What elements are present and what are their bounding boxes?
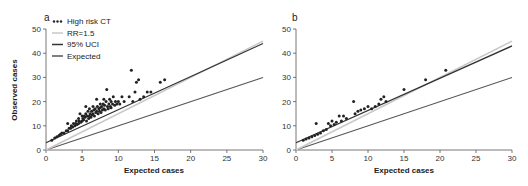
- data-point: [322, 129, 325, 132]
- legend-item: RR=1.5: [52, 29, 95, 38]
- y-tick-label: 10: [282, 122, 291, 131]
- data-point: [105, 100, 108, 103]
- data-point: [63, 132, 66, 135]
- data-point: [78, 112, 81, 115]
- data-point: [146, 90, 149, 93]
- x-tick-label: 5: [330, 154, 335, 163]
- legend-label: RR=1.5: [67, 29, 95, 38]
- data-point: [313, 134, 316, 137]
- data-point: [340, 119, 343, 122]
- legend-item: 95% UCI: [52, 40, 99, 49]
- data-point: [92, 105, 95, 108]
- data-point: [137, 78, 140, 81]
- data-point: [327, 122, 330, 125]
- x-tick-label: 25: [222, 154, 231, 163]
- data-point: [75, 119, 78, 122]
- x-tick-label: 30: [259, 154, 268, 163]
- panel-b-xlabel: Expected cases: [374, 166, 435, 175]
- data-point: [329, 124, 332, 127]
- data-point: [331, 119, 334, 122]
- panel-a-xlabel: Expected cases: [124, 166, 185, 175]
- data-point: [377, 103, 380, 106]
- panel-a-ylabel: Observed cases: [10, 59, 19, 121]
- x-tick-label: 10: [364, 154, 373, 163]
- data-point: [120, 95, 123, 98]
- data-point: [307, 136, 310, 139]
- x-tick-label: 5: [80, 154, 85, 163]
- data-point: [112, 95, 115, 98]
- y-tick-label: 10: [32, 122, 41, 131]
- panel-b: b 01020304050051015202530 Expected cases: [282, 12, 517, 175]
- data-point: [88, 107, 91, 110]
- legend-item: High risk CT: [53, 17, 111, 26]
- y-tick-label: 30: [32, 73, 41, 82]
- data-point: [84, 105, 87, 108]
- data-point: [139, 98, 142, 101]
- data-point: [370, 107, 373, 110]
- y-tick-label: 0: [287, 146, 292, 155]
- legend-item: Expected: [52, 52, 100, 61]
- data-point: [319, 132, 322, 135]
- x-tick-label: 10: [114, 154, 123, 163]
- data-point: [66, 122, 69, 125]
- data-point: [128, 95, 131, 98]
- data-point: [315, 122, 318, 125]
- y-tick-label: 20: [282, 98, 291, 107]
- y-tick-label: 50: [282, 25, 291, 34]
- legend: High risk CTRR=1.595% UCIExpected: [52, 17, 111, 61]
- data-point: [118, 103, 121, 106]
- panel-b-lines: [296, 41, 512, 150]
- data-point: [359, 109, 362, 112]
- data-point: [93, 115, 96, 118]
- data-point: [335, 121, 338, 124]
- panel-b-points: [302, 69, 448, 142]
- data-point: [50, 139, 53, 142]
- data-point: [356, 110, 359, 113]
- x-tick-label: 30: [508, 154, 517, 163]
- data-point: [338, 115, 341, 118]
- data-point: [310, 135, 313, 138]
- data-point: [354, 112, 357, 115]
- data-point: [345, 117, 348, 120]
- line-95-uci: [296, 46, 512, 143]
- y-tick-label: 50: [32, 25, 41, 34]
- data-point: [333, 123, 336, 126]
- data-point: [142, 95, 145, 98]
- data-point: [385, 100, 388, 103]
- x-tick-label: 25: [472, 154, 481, 163]
- y-tick-label: 20: [32, 98, 41, 107]
- data-point: [123, 100, 126, 103]
- data-point: [424, 78, 427, 81]
- data-point: [104, 109, 107, 112]
- x-tick-label: 0: [44, 154, 49, 163]
- panel-a: a 01020304050051015202530 Expected cases…: [10, 12, 268, 175]
- data-point: [316, 133, 319, 136]
- data-point: [163, 78, 166, 81]
- x-tick-label: 20: [186, 154, 195, 163]
- data-point: [352, 100, 355, 103]
- data-point: [382, 95, 385, 98]
- panel-b-label: b: [292, 12, 298, 23]
- panel-a-label: a: [44, 12, 50, 23]
- data-point: [133, 90, 136, 93]
- data-point: [131, 100, 134, 103]
- data-point: [342, 115, 345, 118]
- data-point: [149, 90, 152, 93]
- figure: a 01020304050051015202530 Expected cases…: [0, 0, 528, 186]
- legend-label: High risk CT: [67, 17, 111, 26]
- data-point: [302, 139, 305, 142]
- data-point: [135, 81, 138, 84]
- data-point: [95, 98, 98, 101]
- data-point: [363, 107, 366, 110]
- data-point: [110, 106, 113, 109]
- data-point: [85, 119, 88, 122]
- data-point: [102, 98, 105, 101]
- y-tick-label: 30: [282, 73, 291, 82]
- data-point: [103, 104, 106, 107]
- data-point: [159, 81, 162, 84]
- panel-a-points: [50, 69, 166, 142]
- data-point: [379, 98, 382, 101]
- y-tick-label: 0: [37, 146, 42, 155]
- line-rr-1-5: [296, 41, 512, 150]
- x-tick-label: 15: [150, 154, 159, 163]
